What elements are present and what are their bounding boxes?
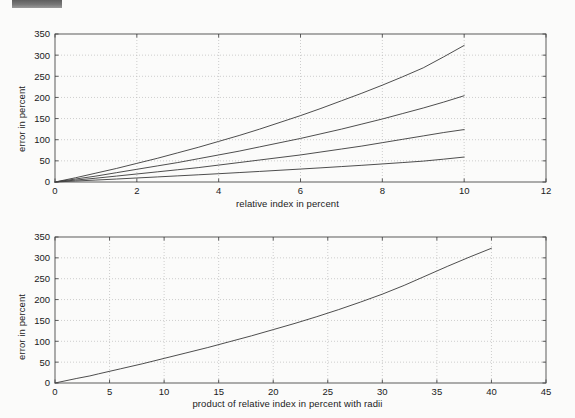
axes-frame: [55, 237, 546, 383]
y-tick-label: 250: [34, 273, 50, 284]
y-tick-label: 300: [34, 50, 50, 61]
top-chart-x-axis-label: relative index in percent: [0, 198, 575, 209]
x-tick-label: 15: [213, 386, 224, 397]
bottom-chart-y-axis-label: error in percent: [16, 294, 27, 360]
x-tick-label: 4: [216, 185, 221, 196]
x-tick-label: 10: [159, 386, 170, 397]
grid-lines: [55, 237, 546, 383]
y-tick-label: 350: [34, 231, 50, 242]
x-tick-label: 35: [432, 386, 443, 397]
top-chart-y-axis-label: error in percent: [16, 86, 27, 152]
y-tick-label: 50: [39, 155, 50, 166]
y-tick-label: 300: [34, 252, 50, 263]
data-series-group: [55, 45, 464, 182]
y-tick-label: 0: [45, 377, 50, 388]
x-tick-label: 45: [541, 386, 552, 397]
y-tick-label: 350: [34, 28, 50, 39]
tick-marks: 050100150200250300350024681012: [34, 28, 551, 196]
y-tick-label: 0: [45, 176, 50, 187]
x-tick-label: 6: [298, 185, 303, 196]
figure-page: 050100150200250300350024681012 error in …: [0, 0, 575, 418]
y-tick-label: 150: [34, 113, 50, 124]
y-tick-label: 50: [39, 357, 50, 368]
y-tick-label: 200: [34, 294, 50, 305]
x-tick-label: 2: [134, 185, 139, 196]
bottom-chart-x-axis-label: product of relative index in percent wit…: [0, 398, 575, 409]
y-tick-label: 100: [34, 336, 50, 347]
x-tick-label: 10: [459, 185, 470, 196]
x-tick-label: 0: [52, 185, 57, 196]
y-tick-label: 250: [34, 71, 50, 82]
bottom-chart-svg: 050100150200250300350051015202530354045: [0, 210, 575, 418]
x-tick-label: 20: [268, 386, 279, 397]
x-tick-label: 30: [377, 386, 388, 397]
top-chart-figure: 050100150200250300350024681012 error in …: [0, 0, 575, 210]
y-tick-label: 200: [34, 92, 50, 103]
y-tick-label: 150: [34, 315, 50, 326]
y-tick-label: 100: [34, 134, 50, 145]
x-tick-label: 0: [52, 386, 57, 397]
x-tick-label: 25: [322, 386, 333, 397]
x-tick-label: 12: [541, 185, 552, 196]
x-tick-label: 5: [107, 386, 112, 397]
x-tick-label: 8: [380, 185, 385, 196]
bottom-chart-figure: 050100150200250300350051015202530354045 …: [0, 210, 575, 418]
x-tick-label: 40: [486, 386, 497, 397]
top-chart-svg: 050100150200250300350024681012: [0, 0, 575, 210]
axes-frame: [55, 34, 546, 182]
series-line-curve-3: [55, 130, 464, 182]
tick-marks: 050100150200250300350051015202530354045: [34, 231, 551, 397]
grid-lines: [55, 34, 546, 182]
